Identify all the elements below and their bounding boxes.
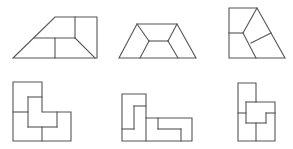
figure-5-wide-l-shape [122,94,192,141]
figure-4-l-shape [13,82,71,141]
figure-2-isosceles-trapezoid [119,24,196,58]
figure-6-stepped-shape [238,83,275,141]
figure-1-right-trapezoid [13,17,97,58]
figures-svg [0,0,293,149]
figure-3-tall-trapezoid [229,8,285,58]
diagram-canvas [0,0,293,149]
